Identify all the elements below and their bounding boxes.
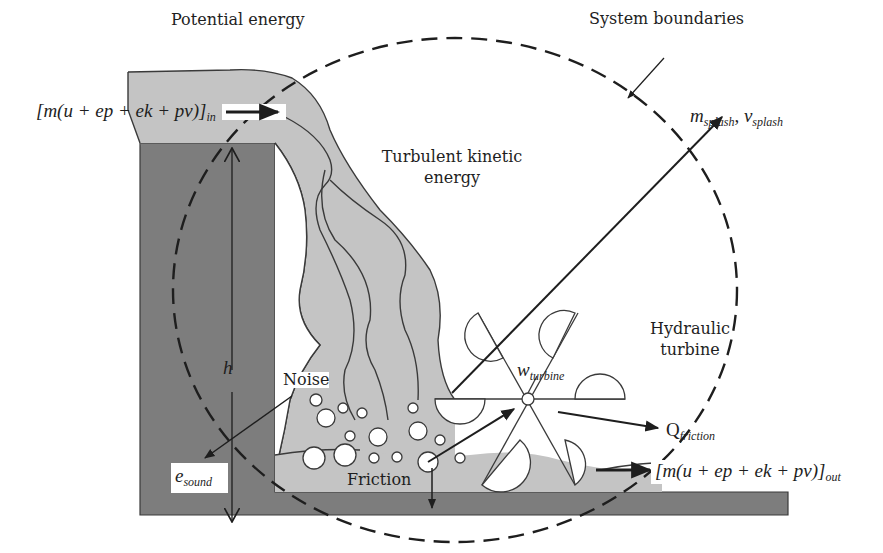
turbulent-kinetic-energy-label: Turbulent kinetic energy [372, 149, 532, 186]
inflow-formula: [m(u + ep + ek + pv)] [36, 100, 206, 121]
noise-label: Noise [283, 372, 329, 388]
work-symbol: w [517, 359, 530, 380]
outflow-subscript: out [825, 470, 840, 484]
work-subscript: turbine [530, 369, 565, 383]
splash-separator: , [734, 105, 744, 126]
system-boundaries-label: System boundaries [589, 11, 744, 27]
splash-velocity-subscript: splash [752, 115, 783, 129]
potential-energy-label: Potential energy [171, 12, 304, 28]
sound-subscript: sound [183, 475, 212, 489]
splash-mass: m [690, 105, 704, 126]
hydraulic-turbine-line2: turbine [640, 342, 740, 358]
splash-label: msplash, vsplash [690, 106, 783, 128]
inflow-energy-label: [m(u + ep + ek + pv)]in [36, 101, 216, 123]
outflow-formula: [m(u + ep + ek + pv)] [655, 460, 825, 481]
hydraulic-turbine-label: Hydraulic turbine [640, 321, 740, 358]
splash-mass-subscript: splash [704, 115, 735, 129]
heat-subscript: friction [680, 429, 715, 443]
turbine-work-label: wturbine [517, 360, 564, 382]
height-label: h [223, 358, 233, 377]
friction-label: Friction [347, 472, 411, 488]
outflow-energy-label: [m(u + ep + ek + pv)]out [651, 460, 845, 484]
turbulent-kinetic-line1: Turbulent kinetic [372, 149, 532, 165]
energy-balance-diagram: Potential energy System boundaries Turbu… [0, 0, 883, 553]
hydraulic-turbine-line1: Hydraulic [640, 321, 740, 337]
turbulent-kinetic-line2: energy [372, 170, 532, 186]
sound-energy-label: esound [175, 466, 212, 488]
inflow-subscript: in [206, 110, 215, 124]
friction-heat-label: Qfriction [666, 420, 715, 442]
heat-symbol: Q [666, 419, 680, 440]
